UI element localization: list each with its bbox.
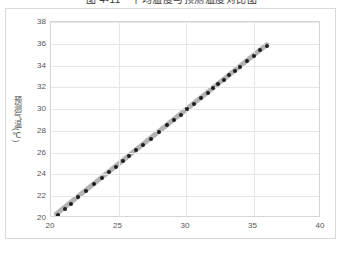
x-tick-label: 35 [238, 221, 268, 230]
y-axis-ticks: 20222426283032343638 [12, 21, 46, 217]
x-tick-label: 30 [170, 221, 200, 230]
x-tick-label: 20 [35, 221, 65, 230]
data-point [157, 130, 161, 134]
data-point [245, 59, 249, 63]
gridline-horizontal [51, 174, 319, 175]
x-tick-label: 25 [103, 221, 133, 230]
data-point [233, 69, 237, 73]
data-point [121, 159, 125, 163]
x-axis-ticks: 2025303540 [50, 221, 320, 233]
data-point [84, 189, 88, 193]
data-point [222, 78, 226, 82]
gridline-horizontal [51, 153, 319, 154]
data-point [56, 213, 60, 217]
y-tick-label: 30 [12, 104, 46, 113]
y-tick-label: 28 [12, 125, 46, 134]
data-point [265, 44, 269, 48]
data-point [63, 207, 67, 211]
trend-line [51, 22, 319, 216]
gridline-horizontal [51, 87, 319, 88]
y-tick-label: 38 [12, 17, 46, 26]
gridline-horizontal [51, 131, 319, 132]
gridline-horizontal [51, 44, 319, 45]
data-point [252, 54, 256, 58]
plot-area [50, 21, 320, 217]
data-point [141, 143, 145, 147]
data-point [206, 91, 210, 95]
gridline-vertical [119, 22, 120, 216]
gridline-vertical [254, 22, 255, 216]
y-tick-label: 32 [12, 82, 46, 91]
x-tick-label: 40 [305, 221, 335, 230]
data-point [192, 102, 196, 106]
y-tick-label: 24 [12, 169, 46, 178]
y-tick-label: 22 [12, 191, 46, 200]
chart-title: 图 4-11 平均温度与预测温度对比图 [0, 0, 343, 5]
gridline-horizontal [51, 22, 319, 23]
data-point [114, 165, 118, 169]
data-point [238, 65, 242, 69]
data-point [172, 118, 176, 122]
chart-title-clip: 图 4-11 平均温度与预测温度对比图 [0, 0, 343, 5]
y-tick-label: 36 [12, 38, 46, 47]
chart-figure: 图 4-11 平均温度与预测温度对比图 预测气温(℃) 202224262830… [0, 0, 343, 255]
gridline-horizontal [51, 66, 319, 67]
y-tick-label: 34 [12, 60, 46, 69]
data-point [179, 113, 183, 117]
data-point [149, 137, 153, 141]
y-tick-label: 26 [12, 147, 46, 156]
gridline-vertical [186, 22, 187, 216]
gridline-horizontal [51, 196, 319, 197]
